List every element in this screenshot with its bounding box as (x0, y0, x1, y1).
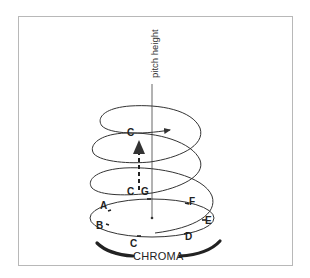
note-label-b: B (96, 220, 103, 231)
note-label-a: A (100, 200, 107, 211)
note-label-d: D (185, 231, 192, 242)
note-label-f: F (189, 196, 195, 207)
chroma-label: CHROMA (133, 250, 184, 262)
pitch-helix-diagram: pitch height C C G A B C D E F CHROMA (0, 0, 310, 278)
pitch-height-label: pitch height (149, 29, 160, 78)
note-label-c-bottom: C (130, 238, 137, 249)
note-label-g: G (141, 186, 149, 197)
axis-origin-dot (151, 217, 154, 220)
chroma-arc-right (180, 241, 220, 256)
helix-segment-middle (92, 133, 201, 193)
chroma-arc-left (97, 243, 133, 256)
note-label-c-mid: C (127, 186, 134, 197)
note-label-c-top: C (127, 127, 134, 138)
note-label-e: E (205, 215, 212, 226)
